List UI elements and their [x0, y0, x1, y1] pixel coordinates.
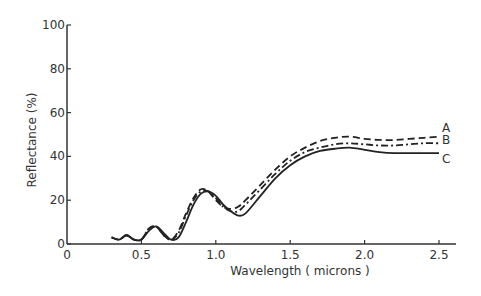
y-tick-label: 100	[42, 18, 65, 32]
x-tick-label: 0.5	[132, 248, 151, 262]
x-axis-label: Wavelength ( microns )	[230, 264, 369, 278]
labels: Wavelength ( microns )Reflectance (%)ABC	[25, 93, 451, 278]
x-tick-label: 0	[63, 248, 71, 262]
y-tick-label: 40	[50, 149, 65, 163]
x-tick-label: 2.5	[429, 248, 448, 262]
axes: 02040608010000.51.01.52.02.5	[42, 18, 456, 262]
curves	[112, 137, 439, 241]
curve-label-c: C	[442, 152, 450, 166]
x-tick-label: 2.0	[355, 248, 374, 262]
y-axis-label: Reflectance (%)	[25, 93, 39, 188]
curve-c	[112, 148, 439, 241]
y-tick-label: 80	[50, 62, 65, 76]
reflectance-chart: 02040608010000.51.01.52.02.5 Wavelength …	[0, 0, 481, 296]
y-tick-label: 20	[50, 193, 65, 207]
x-tick-label: 1.0	[206, 248, 225, 262]
curve-b	[112, 143, 439, 240]
x-tick-label: 1.5	[281, 248, 300, 262]
curve-label-b: B	[442, 133, 450, 147]
y-tick-label: 60	[50, 106, 65, 120]
